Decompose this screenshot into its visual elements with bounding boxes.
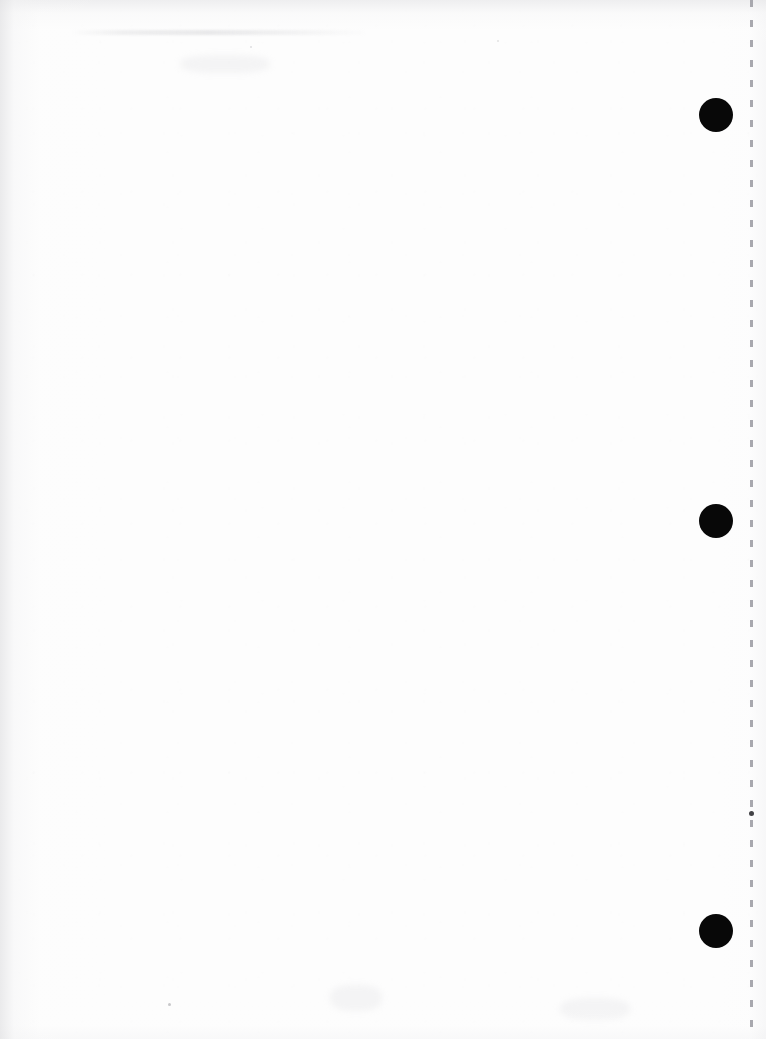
registration-mark-middle — [699, 504, 733, 538]
registration-mark-top — [699, 98, 733, 132]
registration-mark-bottom — [699, 914, 733, 948]
scanned-document-page: Blank scanned sheet with three solid bla… — [0, 0, 766, 1039]
paper-background — [0, 0, 766, 1039]
